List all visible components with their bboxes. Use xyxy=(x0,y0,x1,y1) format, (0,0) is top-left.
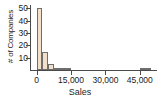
x-tick-mark xyxy=(140,71,141,75)
x-tick-mark xyxy=(105,71,106,75)
y-tick-mark xyxy=(26,21,31,22)
histogram-bar xyxy=(146,68,152,70)
x-axis-tick-labels: 015,00030,00045,000 xyxy=(0,75,160,87)
histogram-bar xyxy=(65,68,71,70)
x-tick-label: 45,000 xyxy=(120,75,160,85)
x-tick-mark xyxy=(37,71,38,75)
histogram-bars xyxy=(31,6,157,70)
histogram-figure: # of Companies 1020304050 015,00030,0004… xyxy=(0,0,160,102)
y-tick-mark xyxy=(26,8,31,9)
y-tick-mark xyxy=(26,33,31,34)
x-axis-label: Sales xyxy=(0,87,160,97)
y-tick-mark xyxy=(26,45,31,46)
y-tick-mark xyxy=(26,58,31,59)
x-axis-line xyxy=(30,70,157,71)
x-tick-mark xyxy=(71,71,72,75)
